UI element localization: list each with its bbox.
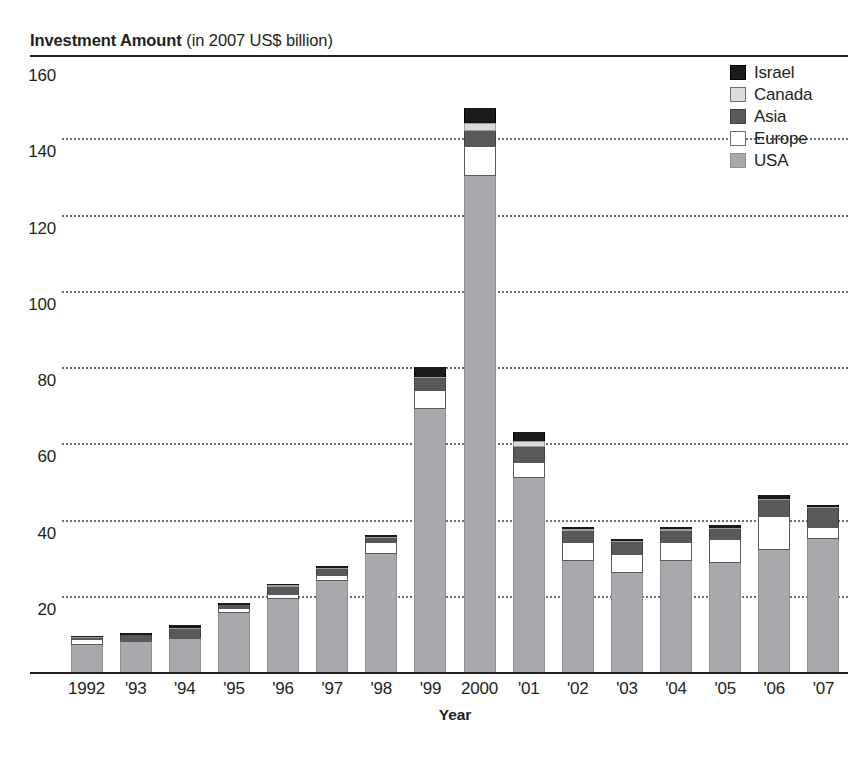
bar-segment-israel[interactable] — [414, 367, 446, 377]
bar-stack[interactable] — [267, 584, 299, 672]
bar-segment-asia[interactable] — [169, 629, 201, 637]
bar-segment-europe[interactable] — [169, 637, 201, 640]
bar-segment-canada[interactable] — [513, 441, 545, 447]
bar-segment-usa[interactable] — [709, 563, 741, 672]
bar-segment-canada[interactable] — [464, 123, 496, 131]
bar-segment-usa[interactable] — [513, 478, 545, 672]
y-tick-label: 140 — [10, 143, 56, 160]
bar-segment-asia[interactable] — [464, 131, 496, 146]
bar-segment-israel[interactable] — [660, 527, 692, 529]
bar-stack[interactable] — [316, 567, 348, 672]
bar-segment-asia[interactable] — [316, 569, 348, 575]
legend-swatch-canada-icon — [730, 87, 746, 102]
bar-segment-israel[interactable] — [218, 603, 250, 605]
bar-segment-asia[interactable] — [218, 605, 250, 608]
bar-segment-asia[interactable] — [807, 508, 839, 527]
bar-stack[interactable] — [414, 367, 446, 672]
bar-stack[interactable] — [758, 495, 790, 672]
bar-segment-asia[interactable] — [365, 538, 397, 543]
y-tick-label: 40 — [10, 525, 56, 542]
y-tick-label: 100 — [10, 296, 56, 313]
bar-segment-israel[interactable] — [611, 539, 643, 541]
bar-segment-canada[interactable] — [758, 498, 790, 500]
bar-stack[interactable] — [365, 535, 397, 672]
bar-segment-europe[interactable] — [365, 542, 397, 553]
x-axis-tick-labels: 1992'93'94'95'96'97'98'992000'01'02'03'0… — [62, 678, 848, 704]
legend-label: USA — [754, 150, 788, 171]
bar-stack[interactable] — [807, 505, 839, 672]
bar-segment-israel[interactable] — [267, 584, 299, 586]
bar-segment-usa[interactable] — [611, 573, 643, 672]
bar-segment-usa[interactable] — [414, 409, 446, 672]
legend-item-canada[interactable]: Canada — [730, 84, 850, 105]
bar-segment-usa[interactable] — [758, 550, 790, 672]
bar-segment-usa[interactable] — [169, 639, 201, 672]
bar-segment-europe[interactable] — [660, 542, 692, 561]
bar-segment-asia[interactable] — [120, 635, 152, 640]
legend-item-asia[interactable]: Asia — [730, 106, 850, 127]
legend-swatch-usa-icon — [730, 153, 746, 168]
legend-swatch-europe-icon — [730, 131, 746, 146]
bar-segment-asia[interactable] — [562, 531, 594, 542]
bar-segment-asia[interactable] — [758, 500, 790, 515]
bar-segment-europe[interactable] — [267, 594, 299, 599]
y-tick-label: 160 — [10, 67, 56, 84]
bar-segment-israel[interactable] — [316, 566, 348, 568]
legend-item-israel[interactable]: Israel — [730, 62, 850, 83]
bar-segment-europe[interactable] — [807, 527, 839, 538]
bar-segment-usa[interactable] — [218, 613, 250, 672]
bar-segment-israel[interactable] — [365, 535, 397, 537]
bar-segment-asia[interactable] — [660, 531, 692, 542]
chart-title: Investment Amount (in 2007 US$ billion) — [30, 30, 530, 52]
bar-segment-israel[interactable] — [169, 625, 201, 628]
bar-segment-europe[interactable] — [414, 390, 446, 409]
bar-segment-usa[interactable] — [316, 581, 348, 673]
bar-stack[interactable] — [709, 525, 741, 672]
x-tick-label: '07 — [793, 678, 853, 700]
bar-segment-asia[interactable] — [267, 587, 299, 595]
bar-segment-usa[interactable] — [267, 599, 299, 672]
bar-segment-usa[interactable] — [562, 561, 594, 672]
bar-segment-israel[interactable] — [71, 636, 103, 638]
bar-segment-israel[interactable] — [464, 108, 496, 123]
bar-segment-asia[interactable] — [414, 378, 446, 389]
bar-segment-israel[interactable] — [758, 495, 790, 499]
bar-segment-israel[interactable] — [709, 525, 741, 527]
bar-segment-usa[interactable] — [660, 561, 692, 672]
bar-segment-israel[interactable] — [513, 432, 545, 442]
bar-segment-israel[interactable] — [807, 505, 839, 507]
bar-segment-usa[interactable] — [120, 642, 152, 673]
bar-segment-europe[interactable] — [758, 516, 790, 550]
bar-stack[interactable] — [120, 634, 152, 672]
bar-segment-europe[interactable] — [218, 608, 250, 613]
bar-stack[interactable] — [660, 527, 692, 672]
bar-segment-europe[interactable] — [513, 462, 545, 477]
bar-segment-usa[interactable] — [71, 645, 103, 672]
x-axis-line — [30, 672, 848, 674]
gridline — [62, 215, 848, 217]
bar-stack[interactable] — [513, 432, 545, 672]
bar-segment-usa[interactable] — [464, 176, 496, 672]
bar-segment-usa[interactable] — [365, 554, 397, 672]
bar-segment-israel[interactable] — [562, 527, 594, 529]
bar-stack[interactable] — [464, 108, 496, 672]
bar-segment-europe[interactable] — [464, 146, 496, 177]
bar-segment-asia[interactable] — [611, 542, 643, 553]
bar-segment-asia[interactable] — [709, 529, 741, 539]
bar-segment-europe[interactable] — [71, 639, 103, 644]
bar-segment-israel[interactable] — [120, 633, 152, 635]
bar-stack[interactable] — [169, 625, 201, 672]
bar-segment-europe[interactable] — [611, 554, 643, 573]
legend-item-europe[interactable]: Europe — [730, 128, 850, 149]
bar-stack[interactable] — [562, 527, 594, 672]
bar-segment-europe[interactable] — [709, 539, 741, 564]
bar-segment-usa[interactable] — [807, 539, 839, 672]
bar-stack[interactable] — [71, 637, 103, 672]
legend-item-usa[interactable]: USA — [730, 150, 850, 171]
bar-segment-canada[interactable] — [414, 376, 446, 378]
bar-segment-asia[interactable] — [513, 447, 545, 462]
bar-segment-europe[interactable] — [316, 575, 348, 580]
bar-segment-europe[interactable] — [562, 542, 594, 561]
bar-stack[interactable] — [611, 539, 643, 672]
bar-stack[interactable] — [218, 603, 250, 672]
